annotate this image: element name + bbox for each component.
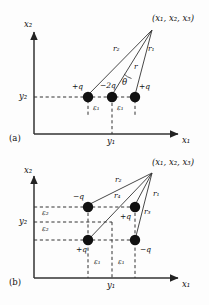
panel-a-charge-dots — [83, 92, 140, 102]
panel-b-x-axis-label: x₁ — [182, 280, 190, 289]
panel-a-charge-right — [130, 92, 140, 102]
panel-a-charge-center — [107, 92, 117, 102]
panel-a-guide-lines — [34, 97, 140, 134]
panel-b-y2-tick-label: y₂ — [19, 217, 27, 226]
panel-a-charge-left — [83, 92, 93, 102]
panel-b-charge-lower-right — [130, 235, 140, 245]
panel-b-ray-label-r4: r₄ — [114, 192, 121, 200]
figure-vector-layer — [0, 0, 209, 305]
panel-b-charge-label-upper-right: +q — [120, 213, 131, 221]
panel-b-ray-label-r2: r₂ — [115, 176, 122, 184]
panel-b-tag: (b) — [9, 278, 21, 287]
panel-a-ray-label-r2: r₂ — [113, 45, 120, 53]
panel-b-horizontal-spacing-right: ε₁ — [118, 259, 125, 266]
figure-canvas: (x₁, x₂, x₃) x₂ x₁ y₂ y₁ r₂ r r₁ θ +q −2… — [0, 0, 209, 305]
panel-b-field-point-label: (x₁, x₂, x₃) — [152, 158, 194, 167]
panel-a-y-axis-label: x₂ — [24, 20, 32, 29]
panel-b-charge-upper-right — [130, 202, 140, 212]
panel-a-y2-tick-label: y₂ — [19, 92, 27, 101]
panel-b-charge-label-upper-left: −q — [73, 193, 84, 201]
panel-b-vertical-spacing-lower: ε₂ — [42, 226, 49, 233]
panel-b-charge-label-lower-left: +q — [76, 246, 87, 254]
panel-a-charge-label-right: +q — [139, 83, 150, 91]
panel-a-field-point-label: (x₁, x₂, x₃) — [152, 14, 194, 23]
panel-a-charge-label-left: +q — [72, 83, 83, 91]
panel-b-y1-tick-label: y₁ — [107, 281, 115, 290]
panel-a-angle-label: θ — [122, 78, 127, 87]
panel-a-charge-label-center: −2q — [100, 82, 116, 90]
panel-a-spacing-label-right: ε₁ — [117, 105, 124, 112]
panel-a-tag: (a) — [9, 134, 21, 143]
panel-a-x-axis-label: x₁ — [182, 136, 190, 145]
panel-b-horizontal-spacing-left: ε₁ — [94, 259, 101, 266]
panel-a-ray-label-r: r — [134, 63, 138, 71]
panel-b-vertical-spacing-upper: ε₂ — [42, 210, 49, 217]
panel-b-y-axis-label: x₂ — [24, 166, 32, 175]
panel-b-ray-r1 — [135, 173, 152, 205]
panel-a-y1-tick-label: y₁ — [107, 137, 115, 146]
panel-b-charge-lower-left — [83, 235, 93, 245]
panel-b-charge-label-lower-right: −q — [140, 246, 151, 254]
panel-b-ray-label-r1: r₁ — [153, 190, 160, 198]
panel-a-spacing-label-left: ε₁ — [93, 105, 100, 112]
panel-a-ray-label-r1: r₁ — [148, 45, 155, 53]
panel-b-ray-label-r3: r₃ — [144, 208, 151, 216]
panel-b-charge-upper-left — [83, 202, 93, 212]
